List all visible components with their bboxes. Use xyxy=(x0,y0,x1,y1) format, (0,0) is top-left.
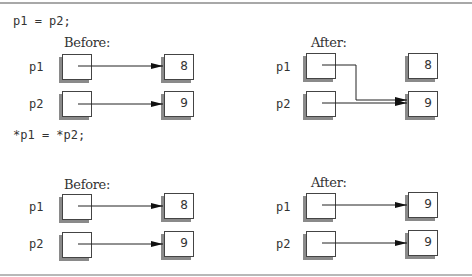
arrow-p1 xyxy=(322,65,407,100)
bottom-rule xyxy=(0,274,472,276)
pointer-arrows xyxy=(0,0,472,277)
